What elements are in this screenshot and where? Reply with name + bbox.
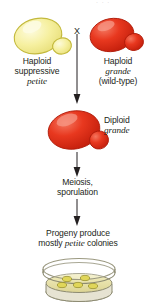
right-parent-line3: (wild-type) xyxy=(82,77,154,87)
petri-dish xyxy=(40,254,118,304)
diploid-grande-cell xyxy=(46,106,110,156)
cross-to-diploid-arrow xyxy=(72,34,82,106)
yeast-cross-diagram: · · · xyxy=(0,0,155,306)
progeny-line2-pre: mostly xyxy=(38,238,65,248)
left-parent-line3: petite xyxy=(0,77,74,87)
haploid-suppressive-petite-cell xyxy=(12,14,74,60)
progeny-line2-post: colonies xyxy=(85,238,118,248)
left-parent-label: Haploid suppressive petite xyxy=(0,57,74,86)
meiosis-label: Meiosis, sporulation xyxy=(28,178,127,198)
haploid-grande-cell xyxy=(88,12,146,58)
diploid-to-meiosis-arrow xyxy=(72,152,82,178)
right-parent-label: Haploid grande (wild-type) xyxy=(82,57,154,86)
progeny-line2: mostly petite colonies xyxy=(8,239,148,249)
progeny-label: Progeny produce mostly petite colonies xyxy=(8,229,148,249)
meiosis-to-progeny-arrow xyxy=(72,199,82,227)
diploid-label: Diploid grande xyxy=(104,116,155,136)
meiosis-line2: sporulation xyxy=(28,188,127,198)
progeny-line2-em: petite xyxy=(65,238,85,248)
diploid-line2: grande xyxy=(104,126,155,136)
clipped-top-text: · · · xyxy=(96,0,110,5)
